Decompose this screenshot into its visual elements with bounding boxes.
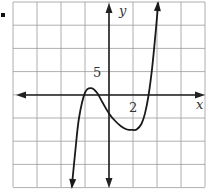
y-axis-up-arrow-icon: [106, 3, 113, 13]
y-axis-down-arrow-icon: [106, 178, 113, 188]
y-axis-label: y: [118, 3, 127, 18]
x-axis: [16, 92, 205, 99]
y-tick-label-5: 5: [93, 65, 101, 80]
graph: y x 5 2: [0, 0, 209, 193]
x-tick-label-2: 2: [129, 100, 137, 115]
x-axis-label: x: [196, 97, 204, 112]
x-axis-left-arrow-icon: [16, 92, 26, 99]
